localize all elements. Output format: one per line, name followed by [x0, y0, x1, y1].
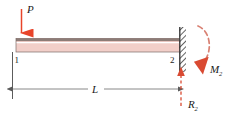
span-dimension: L	[13, 52, 180, 99]
load-label-P: P	[26, 3, 34, 15]
moment-arc-dashed	[198, 26, 209, 63]
beam-top-flange	[16, 39, 180, 42]
reaction-label-R2-subscript: 2	[195, 105, 199, 112]
wall-hatching	[180, 27, 187, 72]
node-labels: 1 2	[15, 55, 175, 65]
reaction-force-R2: R 2	[177, 67, 198, 113]
beam-diagram: P 1 2 L R 2 M 2	[0, 0, 233, 122]
node-label-2: 2	[170, 55, 175, 65]
beam-diagram-canvas: P 1 2 L R 2 M 2	[0, 0, 233, 122]
moment-label-M2-subscript: 2	[219, 70, 223, 77]
node-label-1: 1	[15, 55, 20, 65]
span-label-L: L	[91, 83, 98, 95]
fixed-support-wall	[180, 27, 187, 72]
reaction-moment-M2: M 2	[198, 26, 223, 77]
applied-load-P: P	[22, 3, 35, 33]
beam-member	[16, 39, 180, 53]
